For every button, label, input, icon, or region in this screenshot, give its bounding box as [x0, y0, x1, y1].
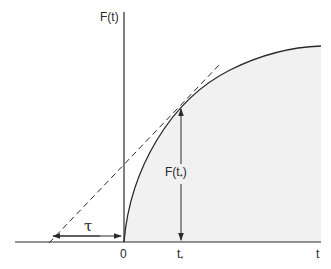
- f-t-star-sub: *: [180, 172, 183, 181]
- shaded-area: [124, 46, 321, 242]
- x-axis-label: t: [316, 248, 319, 260]
- f-t-star-prefix: F(t: [165, 165, 180, 179]
- tau-label: τ: [84, 219, 92, 234]
- t-star-label: t*: [177, 248, 183, 260]
- y-axis-label: F(t): [100, 11, 119, 23]
- f-t-star-label: F(t*): [165, 166, 187, 178]
- origin-label: 0: [120, 248, 127, 260]
- diagram-canvas: [0, 0, 331, 269]
- f-t-star-suffix: ): [183, 165, 187, 179]
